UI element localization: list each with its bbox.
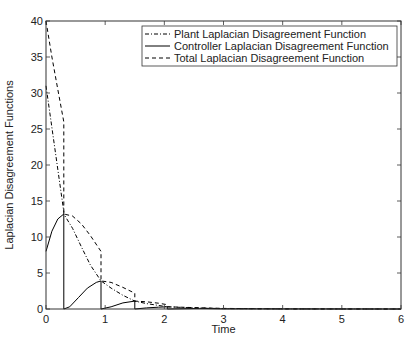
y-tick-label: 35 <box>31 51 43 63</box>
y-tick-label: 30 <box>31 87 43 99</box>
legend-label-total: Total Laplacian Disagreement Function <box>174 52 364 64</box>
y-tick-label: 5 <box>37 267 43 279</box>
y-tick-label: 40 <box>31 15 43 27</box>
x-axis-label: Time <box>211 323 235 335</box>
x-tick-label: 1 <box>102 313 108 325</box>
legend: Plant Laplacian Disagreement Function Co… <box>142 26 397 66</box>
y-tick-label: 0 <box>37 303 43 315</box>
legend-label-controller: Controller Laplacian Disagreement Functi… <box>174 40 389 52</box>
x-tick-label: 4 <box>280 313 286 325</box>
line-chart: 01234560510152025303540 Time Laplacian D… <box>0 0 418 351</box>
y-tick-label: 20 <box>31 159 43 171</box>
x-tick-label: 2 <box>161 313 167 325</box>
y-tick-label: 10 <box>31 231 43 243</box>
x-tick-label: 5 <box>339 313 345 325</box>
y-tick-label: 25 <box>31 123 43 135</box>
legend-label-plant: Plant Laplacian Disagreement Function <box>174 28 366 40</box>
x-tick-label: 6 <box>398 313 404 325</box>
x-tick-label: 0 <box>43 313 49 325</box>
y-axis-label: Laplacian Disagreement Functions <box>3 80 15 250</box>
y-tick-label: 15 <box>31 195 43 207</box>
